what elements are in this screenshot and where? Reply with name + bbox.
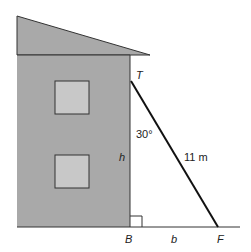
- roof: [17, 16, 150, 55]
- label-T: T: [136, 69, 144, 81]
- right-angle-marker: [130, 216, 142, 227]
- window-upper: [55, 81, 89, 114]
- label-h: h: [119, 151, 125, 163]
- building-ladder-diagram: T 30° h 11 m B b F: [0, 0, 251, 252]
- label-angle: 30°: [136, 128, 153, 140]
- window-lower: [55, 155, 89, 188]
- label-b: b: [171, 233, 177, 245]
- label-B: B: [125, 233, 132, 245]
- label-F: F: [217, 233, 225, 245]
- label-ladder-length: 11 m: [184, 151, 208, 163]
